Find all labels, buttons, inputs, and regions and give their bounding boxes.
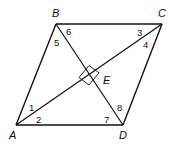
- vertex-label-b: B: [52, 7, 59, 19]
- side-ab: [16, 24, 56, 125]
- angle-label-7: 7: [104, 114, 109, 125]
- vertex-label-c: C: [158, 7, 166, 19]
- angle-label-2: 2: [36, 114, 41, 125]
- angle-label-6: 6: [66, 26, 71, 37]
- diagonal-bd: [56, 24, 123, 125]
- angle-label-5: 5: [54, 37, 59, 48]
- rhombus-diagram: B C A D E 1 2 3 4 5 6 7 8: [0, 0, 174, 147]
- angle-label-8: 8: [117, 102, 122, 113]
- vertex-label-e: E: [103, 74, 111, 86]
- angle-label-4: 4: [143, 39, 148, 50]
- angle-label-3: 3: [137, 27, 142, 38]
- vertex-label-d: D: [119, 129, 127, 141]
- right-angle-marker: [79, 66, 99, 86]
- vertex-label-a: A: [8, 129, 16, 141]
- angle-label-1: 1: [29, 102, 34, 113]
